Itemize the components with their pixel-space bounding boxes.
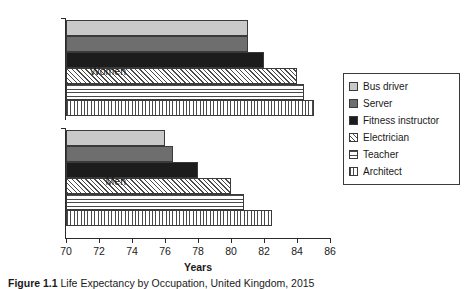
x-tick-74 [132, 238, 133, 243]
category-label-men: Men [106, 175, 126, 187]
x-tick-label-70: 70 [60, 245, 72, 257]
x-tick-label-86: 86 [324, 245, 336, 257]
legend-swatch-solid-black-icon [349, 116, 358, 125]
plot-area: 707274767880828486 Years [66, 16, 330, 238]
legend-label: Server [363, 99, 392, 109]
legend-item-server[interactable]: Server [349, 95, 454, 112]
bar-women-teacher [66, 84, 304, 100]
bar-men-electrician [66, 178, 231, 194]
x-tick-label-80: 80 [225, 245, 237, 257]
x-tick-86 [330, 238, 331, 243]
bar-women-server [66, 36, 248, 52]
legend-label: Fitness instructor [363, 116, 439, 126]
legend-label: Electrician [363, 133, 409, 143]
x-tick-78 [198, 238, 199, 243]
legend-item-bus-driver[interactable]: Bus driver [349, 78, 454, 95]
figure-caption-text: Life Expectancy by Occupation, United Ki… [61, 277, 315, 289]
legend-swatch-horizontal-lines-icon [349, 150, 358, 159]
bar-men-teacher [66, 194, 244, 210]
legend-swatch-diagonal-hatch-icon [349, 133, 358, 142]
legend-label: Bus driver [363, 82, 408, 92]
legend-label: Teacher [363, 150, 399, 160]
category-label-women: Women [90, 65, 126, 77]
legend-item-fitness-instructor[interactable]: Fitness instructor [349, 112, 454, 129]
x-tick-82 [264, 238, 265, 243]
bar-men-fitness-instructor [66, 162, 198, 178]
x-tick-70 [66, 238, 67, 243]
y-tick-men [61, 128, 66, 129]
bar-women-architect [66, 100, 314, 116]
legend-label: Architect [363, 167, 402, 177]
legend-item-electrician[interactable]: Electrician [349, 129, 454, 146]
bar-women-bus-driver [66, 20, 248, 36]
legend: Bus driverServerFitness instructorElectr… [343, 73, 460, 185]
legend-swatch-solid-mid-gray-icon [349, 99, 358, 108]
x-tick-label-76: 76 [159, 245, 171, 257]
legend-swatch-solid-light-gray-icon [349, 82, 358, 91]
x-tick-76 [165, 238, 166, 243]
x-tick-80 [231, 238, 232, 243]
x-tick-label-72: 72 [93, 245, 105, 257]
x-tick-84 [297, 238, 298, 243]
legend-item-architect[interactable]: Architect [349, 163, 454, 180]
x-axis-title: Years [66, 261, 330, 273]
x-tick-label-82: 82 [258, 245, 270, 257]
figure-caption-label: Figure 1.1 [8, 277, 58, 289]
bar-men-server [66, 146, 173, 162]
x-tick-label-84: 84 [291, 245, 303, 257]
x-tick-label-74: 74 [126, 245, 138, 257]
legend-swatch-vertical-lines-icon [349, 167, 358, 176]
bar-men-architect [66, 210, 272, 226]
figure-caption: Figure 1.1 Life Expectancy by Occupation… [8, 277, 458, 289]
x-tick-72 [99, 238, 100, 243]
x-tick-label-78: 78 [192, 245, 204, 257]
legend-item-teacher[interactable]: Teacher [349, 146, 454, 163]
bar-men-bus-driver [66, 130, 165, 146]
y-tick-women [61, 18, 66, 19]
